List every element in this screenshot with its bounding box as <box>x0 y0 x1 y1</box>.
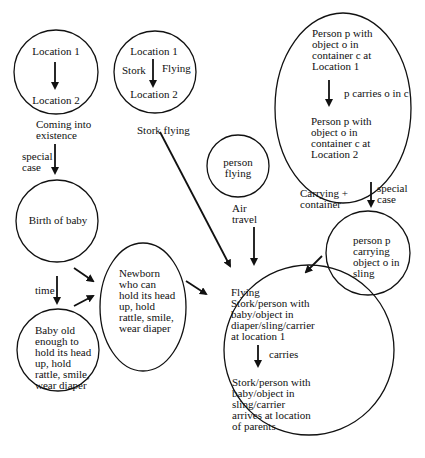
arrow-stork-flying-to-blend <box>160 132 230 266</box>
label-special-case-left: special case <box>22 151 53 173</box>
label-carries: carries <box>269 349 298 360</box>
arrow-newborn-to-blend <box>186 281 206 294</box>
label-newborn: Newborn who can hold its head up, hold r… <box>119 268 175 334</box>
label-time: time <box>35 285 55 296</box>
label-location-1: Location 1 <box>26 46 86 57</box>
label-flying: Flying <box>162 63 191 74</box>
label-location-2: Location 2 <box>124 89 184 100</box>
label-birth-of-baby: Birth of baby <box>22 215 94 226</box>
label-stork: Stork <box>122 65 146 76</box>
label-location-1: Location 1 <box>124 46 184 57</box>
caption-air-travel: Air travel <box>232 203 257 225</box>
label-special-case-right: special case <box>377 183 408 205</box>
label-person-carrying-sling: person p carrying object o in sling <box>353 235 399 279</box>
label-baby-old-enough: Baby old enough to hold its head up, hol… <box>35 325 91 391</box>
label-location-2: Location 2 <box>26 95 86 106</box>
label-person-flying: person flying <box>213 157 263 179</box>
arrow-sling-to-blend <box>306 256 322 272</box>
arrow-birth-to-newborn <box>74 268 93 281</box>
label-person-p-location-2: Person p with object o in container c at… <box>311 116 372 160</box>
caption-stork-flying: Stork flying <box>137 125 190 136</box>
arrow-baby-old-to-newborn <box>74 296 93 306</box>
caption-carrying-container: Carrying + container <box>300 188 348 210</box>
label-p-carries-o-in-c: p carries o in c <box>344 88 409 99</box>
label-stork-arrives-parents: Stork/person with baby/object in sling/c… <box>232 377 311 432</box>
caption-coming-into-existence: Coming into existence <box>36 119 91 141</box>
label-flying-stork-location-1: Flying Stork/person with baby/object in … <box>231 287 315 342</box>
label-person-p-location-1: Person p with object o in container c at… <box>312 28 373 72</box>
